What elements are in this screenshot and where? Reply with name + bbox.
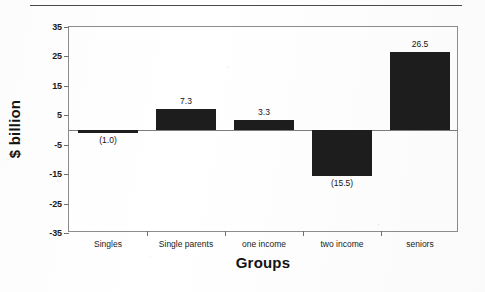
y-axis-tick <box>64 145 69 146</box>
bar-value-label: 7.3 <box>180 96 192 106</box>
bar-value-label: 26.5 <box>412 39 429 49</box>
x-axis-tick-label: two income <box>321 239 364 249</box>
x-axis-title: Groups <box>236 254 291 271</box>
x-axis-tick-label: one income <box>242 239 286 249</box>
y-axis-tick <box>64 115 69 116</box>
y-axis-tick-label: -25 <box>49 199 62 209</box>
plot-area: 3525155-5-15-25-35 (1.0)7.33.3(15.5)26.5… <box>68 26 458 232</box>
y-axis-tick-label: 15 <box>52 81 62 91</box>
y-axis-tick <box>64 56 69 57</box>
bar-value-label: 3.3 <box>258 107 270 117</box>
y-axis-tick-label: 5 <box>57 110 62 120</box>
bar <box>312 130 373 176</box>
y-axis-tick-label: 25 <box>52 51 62 61</box>
y-axis-tick <box>64 27 69 28</box>
y-axis-tick-label: -15 <box>49 169 62 179</box>
x-axis-tick <box>225 231 226 236</box>
x-axis-tick-label: Single parents <box>159 239 213 249</box>
y-axis-tick <box>64 233 69 234</box>
y-axis-tick <box>64 204 69 205</box>
y-axis-tick-label: -35 <box>49 228 62 238</box>
y-axis-tick <box>64 86 69 87</box>
y-axis-tick-label: 35 <box>52 22 62 32</box>
y-axis-tick-label: -5 <box>54 140 62 150</box>
bar <box>390 52 451 130</box>
bar <box>156 109 217 130</box>
bar-value-label: (1.0) <box>99 135 116 145</box>
x-axis-tick <box>147 231 148 236</box>
x-axis-tick <box>381 231 382 236</box>
x-axis-tick-label: Singles <box>94 239 122 249</box>
bar-chart-figure: $ billion 3525155-5-15-25-35 (1.0)7.33.3… <box>0 0 485 292</box>
bar <box>234 120 295 130</box>
x-axis-tick <box>303 231 304 236</box>
y-axis-tick <box>64 174 69 175</box>
y-axis-title: $ billion <box>6 100 23 158</box>
bar <box>78 130 139 133</box>
x-axis-tick-label: seniors <box>406 239 433 249</box>
bar-value-label: (15.5) <box>331 178 353 188</box>
